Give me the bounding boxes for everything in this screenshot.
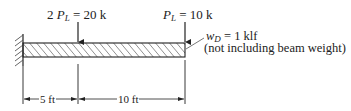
load-value: = 20 k [70, 7, 107, 22]
load-value: = 10 k [176, 7, 213, 22]
leader-line [186, 38, 204, 49]
distributed-load-note: (not including beam weight) [204, 41, 346, 55]
fixed-support [15, 34, 23, 66]
dimension-label-5ft: 5 ft [39, 93, 56, 105]
load-symbol: P [57, 7, 65, 22]
beam [23, 43, 185, 57]
load-label-1: 2 PL = 20 k [47, 8, 106, 25]
dimension-label-10ft: 10 ft [117, 93, 139, 105]
load-label-2: PL = 10 k [163, 8, 213, 25]
load-symbol: P [163, 7, 171, 22]
load-coef: 2 [47, 7, 57, 22]
